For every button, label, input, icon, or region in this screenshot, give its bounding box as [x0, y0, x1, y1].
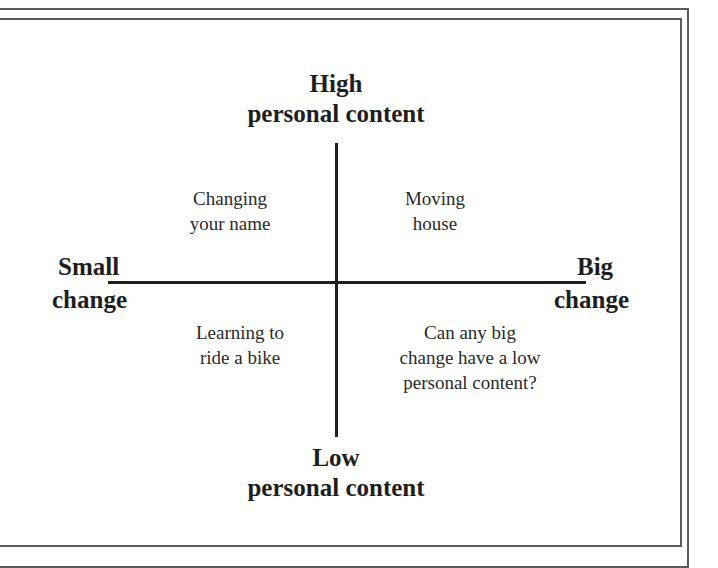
quadrant-text-line: personal content?: [370, 370, 570, 395]
axis-label-big-change: change: [554, 285, 629, 315]
quadrant-text-line: house: [360, 211, 510, 236]
quadrant-bottom-right-text: Can any big change have a low personal c…: [370, 320, 570, 395]
quadrant-top-right-text: Moving house: [360, 186, 510, 236]
horizontal-axis-line: [108, 281, 586, 284]
quadrant-text-line: your name: [150, 211, 310, 236]
quadrant-text-line: Can any big: [370, 320, 570, 345]
axis-label-big: Big: [577, 252, 613, 282]
axis-label-low-personal-content: Low personal content: [186, 443, 486, 503]
quadrant-text-line: change have a low: [370, 345, 570, 370]
quadrant-text-line: Changing: [150, 186, 310, 211]
axis-label-small-change: change: [52, 285, 127, 315]
axis-label-line: personal content: [186, 99, 486, 129]
quadrant-text-line: ride a bike: [160, 345, 320, 370]
quadrant-bottom-left-text: Learning to ride a bike: [160, 320, 320, 370]
quadrant-text-line: Learning to: [160, 320, 320, 345]
axis-label-line: personal content: [186, 473, 486, 503]
axis-label-high-personal-content: High personal content: [186, 69, 486, 129]
quadrant-top-left-text: Changing your name: [150, 186, 310, 236]
axis-label-line: High: [186, 69, 486, 99]
axis-label-line: Low: [186, 443, 486, 473]
axis-label-small: Small: [58, 252, 119, 282]
quadrant-text-line: Moving: [360, 186, 510, 211]
vertical-axis-line: [335, 143, 338, 437]
